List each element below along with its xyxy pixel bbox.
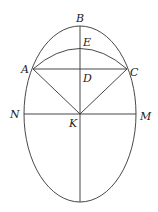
label-A: A [20,63,29,76]
label-B: B [75,12,84,25]
geometry-diagram: B E A C D N M K [0,0,158,212]
segment-AK [33,69,80,114]
label-E: E [82,36,91,49]
label-C: C [130,66,139,79]
label-M: M [139,110,152,123]
label-D: D [82,72,92,85]
label-K: K [68,117,78,130]
label-N: N [9,108,20,121]
